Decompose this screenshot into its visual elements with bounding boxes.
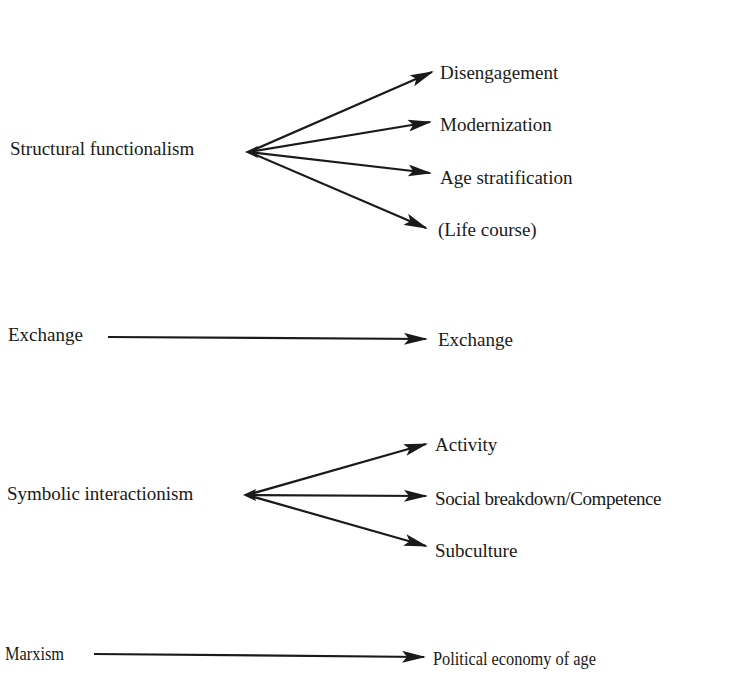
target-modernization: Modernization: [440, 114, 552, 136]
source-exchange: Exchange: [8, 324, 83, 346]
structural-functionalism-arrows: [245, 72, 432, 228]
arrow-marxism-to-political-economy: [94, 654, 424, 657]
marxism-arrow-group: [94, 654, 424, 657]
symbolic-interactionism-arrows: [243, 444, 426, 546]
arrow-to-disengagement: [249, 72, 432, 152]
arrow-to-modernization: [249, 122, 430, 152]
source-marxism: Marxism: [5, 643, 64, 665]
target-political-economy-of-age: Political economy of age: [433, 648, 596, 670]
source-structural-functionalism: Structural functionalism: [10, 138, 194, 160]
target-life-course: (Life course): [438, 219, 537, 241]
target-age-stratification: Age stratification: [440, 167, 572, 189]
target-activity: Activity: [435, 434, 497, 456]
arrow-to-social-breakdown: [247, 495, 426, 496]
theory-diagram: Structural functionalism Exchange Symbol…: [0, 0, 750, 694]
arrow-to-activity: [247, 444, 426, 495]
target-disengagement: Disengagement: [440, 62, 558, 84]
target-exchange: Exchange: [438, 329, 513, 351]
arrow-exchange-to-exchange: [108, 337, 426, 339]
arrows-layer: [0, 0, 750, 694]
target-social-breakdown-competence: Social breakdown/Competence: [435, 488, 661, 510]
arrow-to-subculture: [247, 495, 426, 546]
exchange-arrow-group: [108, 337, 426, 339]
target-subculture: Subculture: [435, 540, 517, 562]
source-symbolic-interactionism: Symbolic interactionism: [7, 483, 193, 505]
arrow-to-life-course: [249, 152, 426, 228]
